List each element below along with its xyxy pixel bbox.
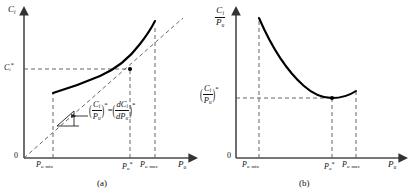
panel-b: CiPu (CiPu)* 0 Pu min Pu* Pu max Pu (b) [200,0,413,194]
panel-b-y-axis-label: CiPu [215,6,225,28]
equation-rhs-fraction: dCidPu [115,100,129,121]
panel-b-xtick-pu-max: Pu max [342,161,360,170]
ytick-close-paren: ) [213,87,216,102]
ytick-star: * [215,85,218,92]
panel-a-optimality-equation: (CiPu)*=(dCidPu)* [89,100,135,121]
equation-lhs-open-paren: ( [89,103,92,118]
minimum-point-marker [330,96,334,100]
panel-b-y-axis-fraction: CiPu [215,6,225,28]
panel-a-xtick-pu-star: Pu* [122,161,133,172]
average-cost-curve [259,18,356,98]
panel-a-ytick-ci-star: Ci* [4,62,14,73]
panel-a-xtick-pu-min: Pu min [36,161,53,170]
equation-rhs-close-paren: ) [129,103,132,118]
panel-b-plot [200,0,413,194]
panel-a-xtick-pu-max: Pu max [140,161,158,170]
ytick-open-paren: ( [200,87,203,102]
panel-b-ytick-ratio-star: (CiPu)* [200,84,219,105]
panel-b-xtick-pu-min: Pu min [242,161,259,170]
figure-container: Ci Ci* 0 Pu min Pu* Pu max Pu (CiPu)*=(d… [0,0,413,194]
panel-a-plot [0,0,207,194]
panel-b-origin-label: 0 [227,152,231,160]
panel-b-xtick-pu-star: Pu* [324,161,335,172]
equation-lhs-fraction: CiPu [92,100,102,121]
panel-b-x-axis-label: Pu [388,160,396,170]
ytick-fraction: CiPu [203,84,213,105]
panel-a: Ci Ci* 0 Pu min Pu* Pu max Pu (CiPu)*=(d… [0,0,207,194]
equation-rhs-star: * [132,101,135,108]
tangency-point-marker [128,67,132,71]
panel-a-x-axis-label: Pu [178,160,186,170]
equation-lhs-close-paren: ) [102,103,105,118]
panel-a-caption: (a) [97,178,107,188]
panel-a-origin-label: 0 [14,152,18,160]
panel-a-y-axis-label: Ci [8,5,16,15]
panel-b-caption: (b) [299,178,310,188]
cost-curve [53,21,155,93]
origin-ray-dashed [24,18,183,158]
equation-rhs-open-paren: ( [112,103,115,118]
slope-angle-hyp [57,111,74,126]
